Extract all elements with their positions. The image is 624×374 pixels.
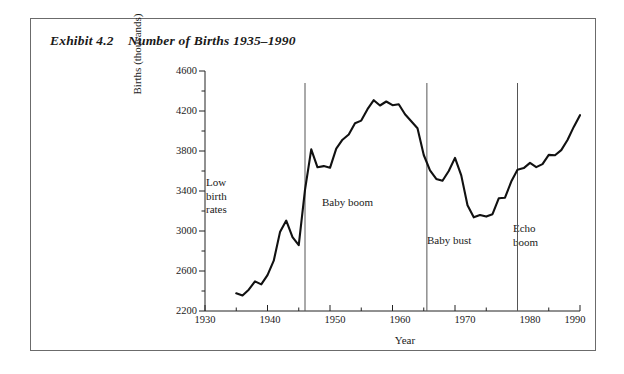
exhibit-frame: Exhibit 4.2 Number of Births 1935–1990 [30, 18, 596, 351]
exhibit-title: Exhibit 4.2 Number of Births 1935–1990 [50, 33, 296, 49]
